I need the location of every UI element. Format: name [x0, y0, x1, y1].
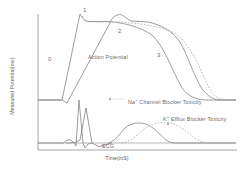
- x-axis-label: Time(mS): [94, 155, 140, 161]
- annotation-na-channel-blocker-toxicity: Na+ Channel Blocker Toxicity: [128, 97, 202, 105]
- axes: [38, 14, 237, 150]
- phase-label-0: 0: [48, 56, 51, 62]
- curve-ecg-widened-qrs: [66, 108, 112, 147]
- annotation-ecg: ECG: [102, 143, 114, 149]
- figure-root: Measured Potential(mv) Time(mS) Action P…: [0, 0, 248, 177]
- leader-dot-k: [167, 123, 169, 125]
- na-label-rest: Channel Blocker Toxicity: [138, 99, 202, 105]
- curve-t-wave-normal: [108, 123, 236, 143]
- k-label-rest: Efflux Blocker Toxicity: [169, 116, 226, 122]
- curve-t-wave-prolonged: [122, 122, 236, 143]
- leader-dot-na: [109, 98, 111, 100]
- annotation-action-potential: Action Potential: [88, 54, 128, 60]
- curve-action-potential-normal: [38, 14, 236, 100]
- phase-label-1: 1: [83, 7, 86, 13]
- phase-label-2: 2: [118, 28, 121, 34]
- phase-label-3: 3: [157, 52, 160, 58]
- curve-ecg-normal: [38, 100, 92, 148]
- y-axis-label: Measured Potential(mv): [9, 47, 15, 125]
- annotation-k-efflux-blocker-toxicity: K+ Efflux Blocker Toxicity: [163, 114, 226, 122]
- action-potential-ecg-chart: [0, 0, 248, 177]
